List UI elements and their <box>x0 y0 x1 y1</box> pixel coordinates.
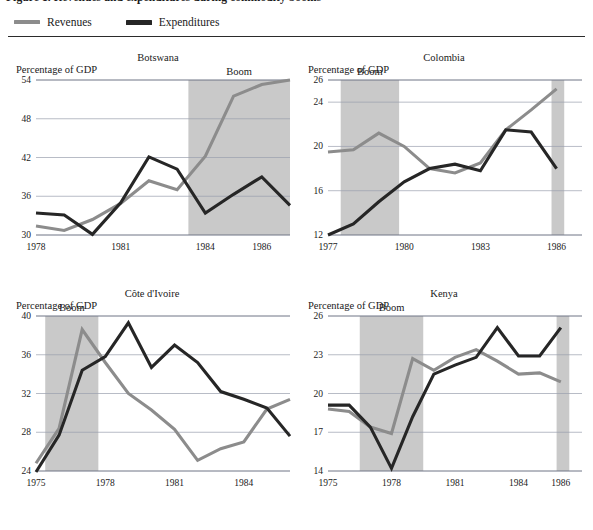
x-axis-tick-label: 1977 <box>319 242 338 252</box>
plot-cote-divoire: 24283236401975197819811984Boom <box>6 288 298 503</box>
line-swatch-dark-icon <box>126 20 152 25</box>
plot-colombia: 12162024261977198019831986Boom <box>298 52 590 267</box>
y-axis-tick-label: 28 <box>8 427 31 437</box>
chart-svg <box>298 288 590 503</box>
panel-cote-divoire: Côte d'Ivoire Percentage of GDP 24283236… <box>6 288 298 503</box>
y-axis-tick-label: 54 <box>8 75 31 85</box>
boom-band <box>341 80 399 235</box>
boom-band <box>552 80 565 235</box>
chart-svg <box>298 52 590 267</box>
legend: Revenues Expenditures <box>14 14 219 30</box>
x-axis-tick-label: 1984 <box>509 478 528 488</box>
y-axis-tick-label: 17 <box>300 427 323 437</box>
y-axis-tick-label: 30 <box>8 230 31 240</box>
x-axis-tick-label: 1981 <box>446 478 465 488</box>
x-axis-tick-label: 1975 <box>27 478 46 488</box>
y-axis-tick-label: 32 <box>8 389 31 399</box>
y-axis-tick-label: 16 <box>300 186 323 196</box>
x-axis-tick-label: 1984 <box>196 242 215 252</box>
y-axis-tick-label: 48 <box>8 114 31 124</box>
y-axis-tick-label: 26 <box>300 75 323 85</box>
x-axis-tick-label: 1986 <box>551 478 570 488</box>
boom-annotation-label: Boom <box>59 302 85 313</box>
x-axis-tick-label: 1978 <box>96 478 115 488</box>
x-axis-tick-label: 1978 <box>27 242 46 252</box>
x-axis-tick-label: 1978 <box>382 478 401 488</box>
y-axis-tick-label: 14 <box>300 466 323 476</box>
y-axis-tick-label: 24 <box>300 97 323 107</box>
chart-svg <box>6 288 298 503</box>
x-axis-tick-label: 1984 <box>234 478 253 488</box>
plot-botswana: 30364248541978198119841986Boom <box>6 52 298 267</box>
legend-label-revenues: Revenues <box>47 16 92 28</box>
figure-title: Figure 1. Revenues and expenditures duri… <box>6 0 321 3</box>
y-axis-tick-label: 36 <box>8 350 31 360</box>
boom-annotation-label: Boom <box>226 66 252 77</box>
line-swatch-gray-icon <box>14 20 40 24</box>
chart-svg <box>6 52 298 267</box>
legend-entry-expenditures: Expenditures <box>126 16 220 28</box>
panel-botswana: Botswana Percentage of GDP 3036424854197… <box>6 52 298 267</box>
y-axis-tick-label: 20 <box>300 389 323 399</box>
x-axis-tick-label: 1986 <box>547 242 566 252</box>
x-axis-tick-label: 1981 <box>165 478 184 488</box>
panel-colombia: Colombia Percentage of GDP 1216202426197… <box>298 52 590 267</box>
header-divider <box>8 36 585 37</box>
panel-kenya: Kenya Percentage of GDP 1417202326197519… <box>298 288 590 503</box>
y-axis-tick-label: 20 <box>300 141 323 151</box>
x-axis-tick-label: 1983 <box>471 242 490 252</box>
plot-kenya: 141720232619751978198119841986Boom <box>298 288 590 503</box>
boom-annotation-label: Boom <box>379 302 405 313</box>
x-axis-tick-label: 1981 <box>111 242 130 252</box>
legend-entry-revenues: Revenues <box>14 16 92 28</box>
y-axis-tick-label: 12 <box>300 230 323 240</box>
y-axis-tick-label: 42 <box>8 153 31 163</box>
y-axis-tick-label: 24 <box>8 466 31 476</box>
boom-annotation-label: Boom <box>357 66 383 77</box>
y-axis-tick-label: 36 <box>8 191 31 201</box>
legend-label-expenditures: Expenditures <box>159 16 220 28</box>
figure-root: Figure 1. Revenues and expenditures duri… <box>0 0 593 530</box>
x-axis-tick-label: 1980 <box>395 242 414 252</box>
y-axis-tick-label: 40 <box>8 311 31 321</box>
y-axis-tick-label: 26 <box>300 311 323 321</box>
x-axis-tick-label: 1975 <box>319 478 338 488</box>
x-axis-tick-label: 1986 <box>252 242 271 252</box>
y-axis-tick-label: 23 <box>300 350 323 360</box>
